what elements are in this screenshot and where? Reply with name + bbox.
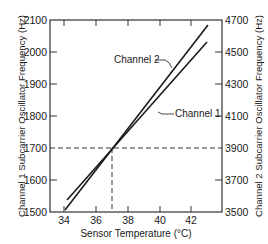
x-tick-labels: 34 36 38 40 42 [58,214,197,226]
series-channel-1 [67,42,207,200]
chart: Channel 2 Channel 1 2100 2000 1900 1800 … [0,0,268,244]
svg-text:2000: 2000 [24,46,48,58]
svg-text:1800: 1800 [24,110,48,122]
svg-text:3700: 3700 [225,174,249,186]
svg-text:40: 40 [154,214,166,226]
right-axis-title: Channel 2 Subcarrier Oscillator Frequenc… [253,15,264,217]
bottom-x-ticks [64,206,191,212]
top-x-ticks [64,20,191,26]
svg-text:4500: 4500 [225,46,249,58]
channel-1-leader [158,112,174,114]
svg-text:1700: 1700 [24,142,48,154]
left-y-ticks [50,52,57,180]
svg-text:34: 34 [58,214,70,226]
svg-text:4300: 4300 [225,78,249,90]
x-axis-title: Sensor Temperature (°C) [80,228,191,239]
channel-1-label: Channel 1 [175,108,221,119]
channel-2-label: Channel 2 [114,54,160,65]
svg-text:1900: 1900 [24,78,48,90]
left-axis-title: Channel 1 Subcarrier Oscillator Frequenc… [16,15,27,217]
svg-text:1500: 1500 [24,206,48,218]
svg-text:42: 42 [185,214,197,226]
svg-text:1600: 1600 [24,174,48,186]
svg-text:36: 36 [90,214,102,226]
right-tick-labels: 4700 4500 4300 4100 3900 3700 3500 [225,14,249,218]
svg-text:4700: 4700 [225,14,249,26]
svg-text:38: 38 [122,214,134,226]
svg-text:3900: 3900 [225,142,249,154]
svg-text:2100: 2100 [24,14,48,26]
svg-text:3500: 3500 [225,206,249,218]
svg-text:4100: 4100 [225,110,249,122]
left-tick-labels: 2100 2000 1900 1800 1700 1600 1500 [24,14,48,218]
